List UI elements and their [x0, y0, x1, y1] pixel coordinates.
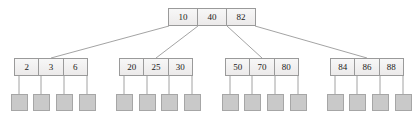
btree-leaf-box[interactable] [116, 94, 133, 111]
node-key-cell[interactable]: 30 [169, 59, 192, 75]
btree-internal-node-4[interactable]: 848688 [330, 58, 404, 76]
node-key-cell[interactable]: 20 [120, 59, 144, 75]
root-edge [255, 26, 367, 58]
btree-internal-node-3[interactable]: 507080 [225, 58, 299, 76]
btree-leaf-box[interactable] [56, 94, 73, 111]
btree-root-node[interactable]: 104082 [168, 8, 256, 26]
btree-leaf-box[interactable] [244, 94, 261, 111]
btree-leaf-box[interactable] [222, 94, 239, 111]
root-edge [156, 26, 198, 58]
btree-leaf-box[interactable] [161, 94, 178, 111]
node-key-cell[interactable]: 50 [226, 59, 250, 75]
root-edge [227, 26, 262, 58]
node-key-cell[interactable]: 86 [355, 59, 379, 75]
root-edge [51, 26, 169, 58]
node-key-cell[interactable]: 10 [169, 9, 198, 25]
btree-leaf-box[interactable] [349, 94, 366, 111]
node-key-cell[interactable]: 82 [227, 9, 255, 25]
btree-leaf-box[interactable] [11, 94, 28, 111]
btree-internal-node-2[interactable]: 202530 [119, 58, 193, 76]
btree-leaf-box[interactable] [79, 94, 96, 111]
btree-leaf-box[interactable] [267, 94, 284, 111]
node-key-cell[interactable]: 80 [275, 59, 298, 75]
btree-leaf-box[interactable] [290, 94, 307, 111]
node-key-cell[interactable]: 6 [64, 59, 87, 75]
node-key-cell[interactable]: 40 [198, 9, 227, 25]
node-key-cell[interactable]: 3 [39, 59, 63, 75]
node-key-cell[interactable]: 2 [15, 59, 39, 75]
node-key-cell[interactable]: 84 [331, 59, 355, 75]
btree-leaf-box[interactable] [33, 94, 50, 111]
btree-leaf-box[interactable] [139, 94, 156, 111]
btree-diagram: 104082236202530507080848688 [0, 0, 416, 120]
btree-leaf-box[interactable] [327, 94, 344, 111]
btree-leaf-box[interactable] [372, 94, 389, 111]
btree-leaf-box[interactable] [184, 94, 201, 111]
btree-leaf-box[interactable] [395, 94, 412, 111]
node-key-cell[interactable]: 70 [250, 59, 274, 75]
node-key-cell[interactable]: 88 [380, 59, 403, 75]
btree-internal-node-1[interactable]: 236 [14, 58, 88, 76]
node-key-cell[interactable]: 25 [144, 59, 168, 75]
